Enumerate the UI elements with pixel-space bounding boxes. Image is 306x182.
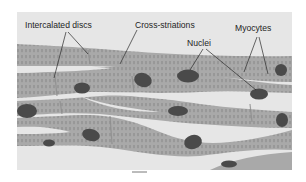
nucleus bbox=[276, 113, 288, 127]
label-nuclei: Nuclei bbox=[187, 38, 211, 48]
nucleus bbox=[275, 64, 287, 76]
nucleus bbox=[43, 140, 55, 147]
nucleus bbox=[177, 70, 199, 83]
nucleus bbox=[221, 161, 237, 168]
nucleus bbox=[250, 89, 268, 100]
nucleus bbox=[168, 106, 188, 116]
label-intercalated-discs: Intercalated discs bbox=[25, 20, 92, 30]
label-myocytes: Myocytes bbox=[235, 23, 271, 33]
nucleus bbox=[17, 104, 37, 118]
nucleus bbox=[74, 83, 90, 94]
cardiac-muscle-diagram: Intercalated discs Cross-striations Nucl… bbox=[0, 0, 306, 182]
label-cross-striations: Cross-striations bbox=[135, 20, 195, 30]
